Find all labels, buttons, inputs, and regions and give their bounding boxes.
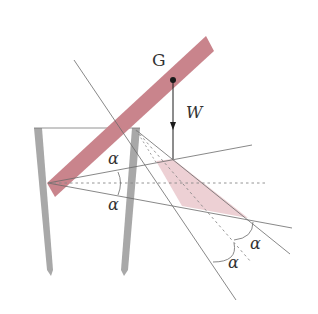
label-w: W <box>186 103 204 122</box>
weight-arrowhead <box>170 122 176 130</box>
label-alpha-b-right: α <box>250 234 261 253</box>
cone-a-lower <box>48 183 292 228</box>
label-alpha-b-left: α <box>228 253 239 272</box>
label-alpha-a-upper: α <box>108 149 119 168</box>
cone-b-edge <box>136 130 290 254</box>
diagram-canvas: G W α α α α <box>0 0 318 314</box>
label-alpha-a-lower: α <box>108 195 119 214</box>
left-wall <box>34 128 53 276</box>
label-g: G <box>152 50 166 70</box>
center-of-gravity-dot <box>170 77 176 83</box>
angle-arc-a <box>118 172 121 195</box>
right-wall <box>121 128 140 276</box>
cone-b-center2 <box>136 130 157 164</box>
